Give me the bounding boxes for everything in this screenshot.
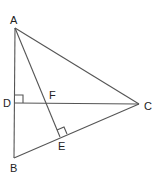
segment-bc: [14, 104, 139, 158]
label-e: E: [58, 140, 65, 152]
right-angle-marker-d: [15, 95, 23, 103]
label-a: A: [10, 14, 18, 26]
label-d: D: [3, 97, 11, 109]
label-f: F: [49, 89, 56, 101]
segment-dc: [15, 103, 139, 104]
segment-ae: [15, 28, 60, 137]
diagram-canvas: A B C D E F: [0, 0, 158, 183]
label-c: C: [144, 100, 152, 112]
segment-ac: [15, 28, 139, 104]
segment-ab: [14, 28, 15, 158]
label-b: B: [10, 162, 17, 174]
